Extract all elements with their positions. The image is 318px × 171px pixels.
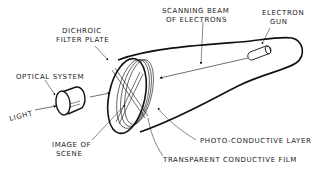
vidicon-diagram: DICHROIC FILTER PLATE SCANNING BEAM OF E… <box>0 0 318 171</box>
label-gun: GUN <box>270 18 288 26</box>
tube-body <box>101 37 302 136</box>
label-dichroic: DICHROIC <box>62 27 102 35</box>
label-of-electrons: OF ELECTRONS <box>166 16 227 24</box>
label-transparent-film: TRANSPARENT CONDUCTIVE FILM <box>162 156 297 164</box>
label-electron: ELECTRON <box>262 9 304 17</box>
label-filter-plate: FILTER PLATE <box>56 36 109 44</box>
label-photo-conductive: PHOTO-CONDUCTIVE LAYER <box>200 137 311 145</box>
label-optical-system: OPTICAL SYSTEM <box>16 73 84 81</box>
label-scanning-beam: SCANNING BEAM <box>162 7 229 15</box>
electron-gun <box>248 45 272 60</box>
label-image-of: IMAGE OF <box>52 141 91 149</box>
label-light: LIGHT <box>9 109 34 123</box>
label-scene: SCENE <box>56 150 82 158</box>
optical-system-lens <box>54 87 84 116</box>
